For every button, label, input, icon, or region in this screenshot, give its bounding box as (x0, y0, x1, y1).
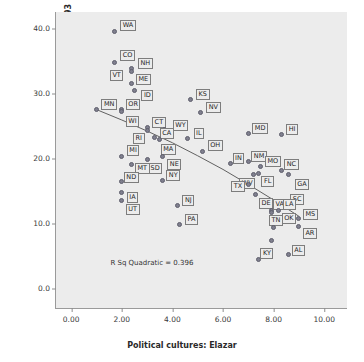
data-point-label: TX (231, 181, 244, 192)
data-point-label: CA (160, 128, 174, 139)
data-point-label: CO (120, 50, 135, 61)
data-point[interactable] (279, 132, 284, 137)
data-point[interactable] (112, 29, 117, 34)
data-point-label: IA (127, 192, 138, 203)
data-point-label: WI (126, 116, 139, 127)
data-point[interactable] (246, 182, 251, 187)
data-point-label: AR (303, 228, 317, 239)
data-point-label: FL (261, 176, 273, 187)
data-point[interactable] (129, 162, 134, 167)
data-point[interactable] (129, 69, 134, 74)
data-point-label: GA (295, 179, 309, 190)
data-point[interactable] (198, 110, 203, 115)
y-axis-tick-label: 40.0 (33, 24, 56, 33)
plot-inner: 0.010.020.030.040.00.002.004.006.008.001… (56, 12, 347, 308)
data-point[interactable] (279, 168, 284, 173)
data-point[interactable] (119, 154, 124, 159)
data-point[interactable] (160, 154, 165, 159)
data-point-label: CT (152, 117, 166, 128)
data-point-label: IL (194, 128, 205, 139)
data-point-label: MS (303, 209, 318, 220)
data-point-label: WY (173, 120, 188, 131)
x-axis-tick-label: 2.00 (113, 308, 130, 324)
data-point-label: AL (292, 245, 305, 256)
data-point[interactable] (177, 222, 182, 227)
data-point-label: ID (141, 90, 153, 101)
data-point-label: UT (126, 204, 140, 215)
data-point[interactable] (286, 172, 291, 177)
data-point[interactable] (200, 149, 205, 154)
data-point[interactable] (129, 81, 134, 86)
data-point[interactable] (145, 157, 150, 162)
y-axis-tick-label: 10.0 (33, 219, 56, 228)
data-point-label: PA (185, 214, 198, 225)
y-axis-tick-label: 20.0 (33, 154, 56, 163)
data-point-label: WA (120, 20, 136, 31)
x-axis-tick-label: 0.00 (63, 308, 80, 324)
y-axis-tick-label: 0.0 (38, 284, 56, 293)
data-point-label: NY (166, 170, 180, 181)
data-point-label: OK (282, 213, 296, 224)
data-point[interactable] (246, 131, 251, 136)
data-point[interactable] (296, 216, 301, 221)
data-point-label: MN (101, 99, 116, 110)
data-point[interactable] (112, 60, 117, 65)
data-point-label: MI (127, 145, 140, 156)
data-point[interactable] (271, 225, 276, 230)
data-point[interactable] (188, 97, 193, 102)
data-point[interactable] (119, 190, 124, 195)
data-point[interactable] (185, 136, 190, 141)
data-point-label: NV (206, 102, 220, 113)
x-axis-tick-label: 10.00 (313, 308, 334, 324)
data-point-label: VT (110, 70, 123, 81)
data-point[interactable] (119, 198, 124, 203)
data-point[interactable] (286, 252, 291, 257)
data-point[interactable] (246, 159, 251, 164)
data-point-label: MO (265, 156, 281, 167)
data-point[interactable] (296, 224, 301, 229)
data-point[interactable] (145, 128, 150, 133)
data-point-label: LA (283, 199, 296, 210)
r-squared-annotation: R Sq Quadratic = 0.396 (110, 259, 193, 267)
data-point-label: NH (138, 58, 153, 69)
x-axis-title: Political cultures: Elazar (0, 341, 364, 350)
data-point-label: KS (196, 89, 209, 100)
data-point[interactable] (269, 210, 274, 215)
data-point[interactable] (160, 178, 165, 183)
data-point[interactable] (253, 192, 258, 197)
data-point-label: MD (252, 123, 268, 134)
data-point-label: NE (167, 159, 181, 170)
data-point[interactable] (269, 238, 274, 243)
y-axis-tick-label: 30.0 (33, 89, 56, 98)
data-point[interactable] (119, 109, 124, 114)
x-axis-tick-label: 6.00 (215, 308, 232, 324)
data-point-label: HI (286, 124, 298, 135)
plot-area: 0.010.020.030.040.00.002.004.006.008.001… (55, 12, 347, 309)
data-point-label: IN (233, 153, 245, 164)
data-point-label: SD (148, 163, 162, 174)
data-point[interactable] (157, 137, 162, 142)
data-point-label: NC (284, 159, 298, 170)
data-point[interactable] (132, 88, 137, 93)
data-point-label: OR (126, 99, 141, 110)
x-axis-tick-label: 4.00 (164, 308, 181, 324)
data-point[interactable] (94, 107, 99, 112)
data-point[interactable] (256, 171, 261, 176)
scatter-chart: Women elected to state legislatures 1993… (0, 0, 364, 362)
data-point-label: OH (208, 140, 223, 151)
data-point[interactable] (276, 208, 281, 213)
data-point-label: ME (136, 74, 151, 85)
data-point-label: KY (260, 248, 273, 259)
data-point[interactable] (258, 164, 263, 169)
data-point-label: RI (133, 133, 144, 144)
quadratic-fit-line (56, 12, 347, 308)
data-point-label: ND (124, 172, 139, 183)
x-axis-tick-label: 8.00 (265, 308, 282, 324)
data-point-label: MA (161, 144, 176, 155)
data-point-label: NJ (182, 195, 194, 206)
data-point[interactable] (175, 203, 180, 208)
